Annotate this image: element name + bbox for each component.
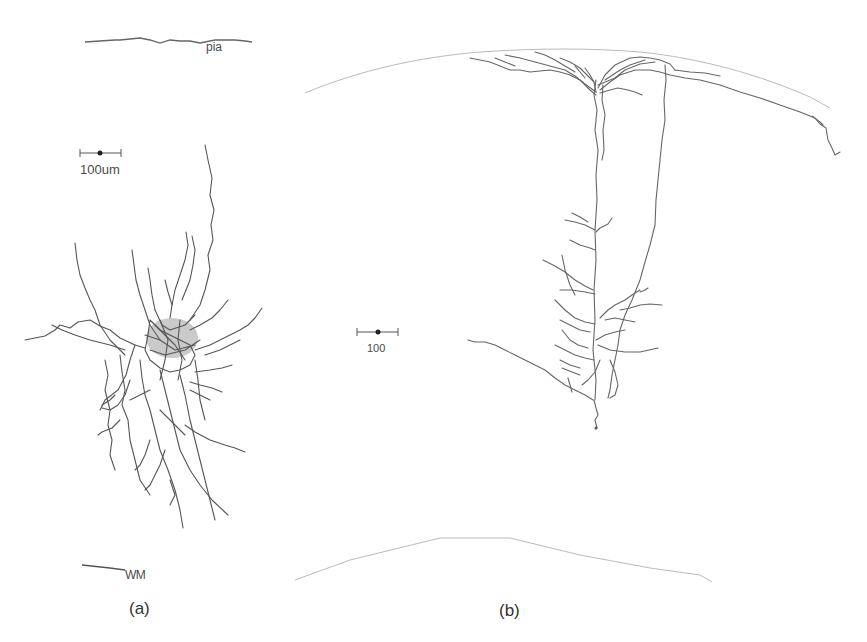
panel-a-caption: (a) — [129, 599, 150, 619]
scale-bar-a — [80, 149, 121, 157]
panel-a — [25, 38, 262, 570]
pia-boundary-line — [85, 38, 252, 43]
pia-boundary-arc — [305, 49, 830, 108]
pia-label: pia — [206, 40, 222, 54]
neuron-a-reconstruction — [25, 145, 262, 528]
figure-canvas — [0, 0, 867, 642]
scale-bar-a-label: 100um — [80, 162, 120, 177]
scale-bar-b-label: 100 — [367, 342, 385, 354]
figure: pia 100um WM 100 (a) (b) — [0, 0, 867, 642]
panel-b-caption: (b) — [499, 601, 520, 621]
scale-bar-b — [357, 328, 398, 336]
wm-label: WM — [125, 568, 145, 582]
wm-boundary-arc — [295, 538, 712, 582]
wm-boundary-line — [82, 565, 125, 570]
panel-b — [295, 49, 840, 582]
neuron-b-reconstruction — [468, 52, 840, 430]
